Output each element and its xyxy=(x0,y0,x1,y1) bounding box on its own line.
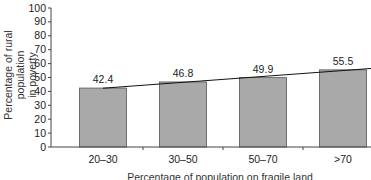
data-label: 46.8 xyxy=(173,67,194,79)
x-tick-label: >70 xyxy=(334,153,352,165)
x-tick-label: 20–30 xyxy=(88,153,117,165)
bar xyxy=(320,70,367,147)
bar xyxy=(240,78,287,147)
y-tick-label: 0 xyxy=(40,141,46,153)
data-label: 49.9 xyxy=(253,63,274,75)
bar xyxy=(80,88,127,147)
bar xyxy=(160,82,207,147)
data-label: 42.4 xyxy=(93,73,114,85)
bar-chart: 0102030405060708090100 42.446.849.955.5 … xyxy=(0,0,371,180)
x-axis-label: Percentage of population on fragile land xyxy=(100,171,340,180)
y-axis-label: Percentage of rural population in povert… xyxy=(2,10,32,140)
y-axis-label-line-1: Percentage of rural population xyxy=(2,10,26,140)
bars: 42.446.849.955.5 xyxy=(80,55,371,147)
x-tick-label: 50–70 xyxy=(248,153,277,165)
x-axis: 20–3030–5050–70>70 xyxy=(51,147,371,165)
y-axis-label-line-2: in poverty xyxy=(26,10,38,140)
x-tick-label: 30–50 xyxy=(168,153,197,165)
data-label: 55.5 xyxy=(333,55,354,67)
